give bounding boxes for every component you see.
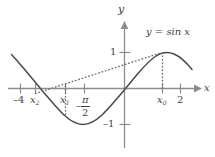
- x1-subscript: 1: [66, 99, 70, 106]
- secant-line: [36, 53, 163, 94]
- sine-graph-figure: y x y = sin x 1 –1 –4 x2 x1 – π 2 x0 2: [0, 0, 215, 157]
- pi-numerator: π: [81, 95, 90, 106]
- x0-subscript: 0: [163, 99, 167, 106]
- y-axis: [121, 21, 129, 148]
- x-tick-label-two: 2: [177, 95, 183, 105]
- y-tick-label-negative-one: –1: [103, 119, 114, 129]
- pi-fraction: π 2: [81, 95, 90, 118]
- x-tick-label-x1: x1: [60, 95, 69, 106]
- graph-canvas: [0, 0, 215, 157]
- axis-y-label: y: [118, 4, 124, 15]
- axis-x-label: x: [204, 83, 210, 93]
- pi-denominator: 2: [81, 108, 90, 119]
- x-axis: [8, 85, 202, 93]
- x2-subscript: 2: [36, 99, 40, 106]
- y-tick-label-one: 1: [110, 47, 116, 57]
- x-tick-label-minus-pi-over-two: – π 2: [76, 95, 90, 118]
- x-tick-label-minus-four: –4: [13, 95, 24, 105]
- curve-label: y = sin x: [146, 27, 190, 37]
- x-tick-label-x0: x0: [157, 95, 166, 106]
- x-tick-label-x2: x2: [30, 95, 39, 106]
